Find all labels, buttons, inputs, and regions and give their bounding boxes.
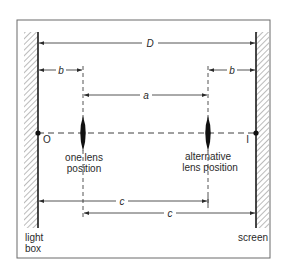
screen-wall xyxy=(256,32,269,228)
lens2-label-line1: alternative xyxy=(185,151,232,162)
dimension-c-lower: c xyxy=(84,208,255,219)
light-box-wall xyxy=(24,32,38,228)
dimension-c-lower-label: c xyxy=(168,208,173,219)
object-point-label: O xyxy=(43,134,51,145)
light-box-label-line1: light xyxy=(25,232,44,243)
light-box-label-line2: box xyxy=(25,243,41,254)
lens-displacement-diagram: D b b a O I xyxy=(0,0,288,275)
dimension-b-right: b xyxy=(209,65,255,76)
lens1-label-line1: one lens xyxy=(65,152,103,163)
dimension-D: D xyxy=(39,38,255,49)
screen-label: screen xyxy=(238,232,268,243)
dimension-b-left: b xyxy=(39,65,82,76)
lens-icon-position-2 xyxy=(205,116,211,151)
lens1-label-line2: position xyxy=(67,163,101,174)
lens-icon-position-1 xyxy=(80,116,86,151)
dimension-b-left-label: b xyxy=(58,65,64,76)
lens2-label-line2: lens position xyxy=(182,162,238,173)
dimension-a-label: a xyxy=(143,90,149,101)
dimension-c-upper: c xyxy=(39,196,208,207)
image-point-I xyxy=(253,130,258,135)
dimension-D-label: D xyxy=(146,38,153,49)
dimension-c-upper-label: c xyxy=(120,196,125,207)
object-point-O xyxy=(35,130,40,135)
dimension-a: a xyxy=(84,90,207,101)
dimension-b-right-label: b xyxy=(229,65,235,76)
image-point-label: I xyxy=(246,134,249,145)
diagram-frame xyxy=(17,20,270,258)
